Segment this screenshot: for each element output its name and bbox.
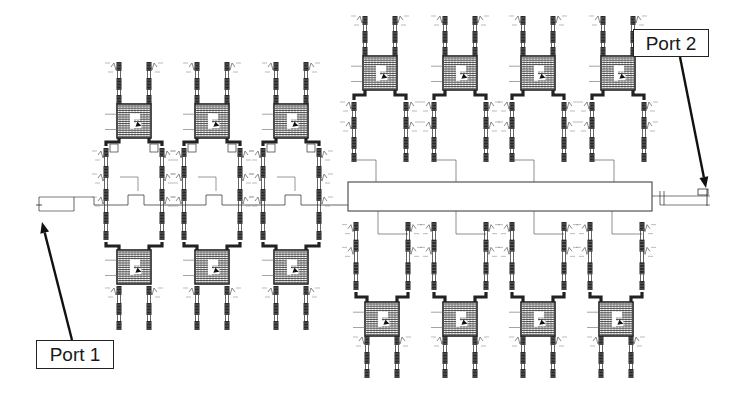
bottom-unit-4 xyxy=(576,211,656,378)
circuit-layout-diagram xyxy=(0,0,746,395)
top-unit-3 xyxy=(498,16,578,182)
bottom-branch-units xyxy=(342,211,656,378)
left-unit-3 xyxy=(249,62,333,330)
port1-arrowhead xyxy=(40,222,49,234)
port-2-label: Port 2 xyxy=(633,29,709,57)
left-unit-1 xyxy=(92,62,176,330)
top-branch-units xyxy=(340,16,658,182)
manifold xyxy=(348,182,652,211)
port-1-label: Port 1 xyxy=(36,340,114,369)
port2-arrowhead xyxy=(699,176,708,188)
top-unit-1 xyxy=(340,16,420,182)
top-unit-2 xyxy=(420,16,500,182)
bottom-unit-3 xyxy=(498,211,578,378)
bottom-unit-1 xyxy=(342,211,422,378)
left-unit-2 xyxy=(170,62,254,330)
bottom-unit-2 xyxy=(420,211,500,378)
